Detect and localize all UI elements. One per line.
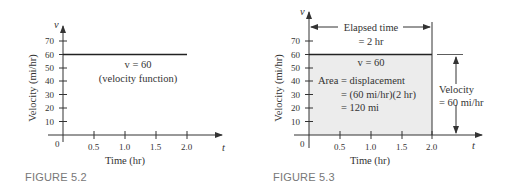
svg-text:60: 60 [45,50,55,60]
y-axis-title: Velocity (mi/hr) [27,54,39,122]
figure-5-3: v t 0 70 60 50 40 30 20 10 [273,6,484,183]
svg-text:30: 30 [45,90,55,100]
svg-text:70: 70 [45,36,55,46]
y-tick-labels: 70 60 50 40 30 20 10 [291,36,301,127]
svg-text:60: 60 [291,50,301,60]
svg-text:1.0: 1.0 [119,142,131,152]
y-axis-var: v [300,6,305,17]
elapsed-value: = 2 hr [358,36,384,47]
x-axis-title: Time (hr) [105,155,146,167]
svg-text:50: 50 [291,63,301,73]
origin-label: 0 [55,139,60,149]
x-axis-title: Time (hr) [350,155,391,167]
svg-text:70: 70 [291,36,301,46]
svg-text:50: 50 [45,63,55,73]
x-tick-labels: 0.5 1.0 1.5 2.0 [334,142,438,152]
svg-text:1.5: 1.5 [150,142,162,152]
svg-text:10: 10 [45,117,55,127]
svg-text:0.5: 0.5 [88,142,100,152]
svg-text:20: 20 [45,103,55,113]
figure-5-2: v t 0 70 60 50 40 30 20 10 [25,19,226,183]
x-axis-var: t [222,142,226,153]
svg-text:30: 30 [291,90,301,100]
equation-note: (velocity function) [99,73,178,85]
equation-label: v = 60 [125,59,152,70]
x-axis-var: t [472,140,476,151]
figure-caption: FIGURE 5.2 [25,171,87,183]
equation-label: v = 60 [358,57,385,68]
svg-text:0.5: 0.5 [334,142,346,152]
svg-text:2.0: 2.0 [181,142,193,152]
svg-text:20: 20 [291,103,301,113]
y-tick-labels: 70 60 50 40 30 20 10 [45,36,55,127]
svg-text:1.0: 1.0 [365,142,377,152]
x-tick-labels: 0.5 1.0 1.5 2.0 [88,142,193,152]
svg-text:2.0: 2.0 [426,142,438,152]
area-label-2: = (60 mi/hr)(2 hr) [341,89,417,101]
svg-text:40: 40 [45,76,55,86]
figure-caption: FIGURE 5.3 [273,171,335,183]
y-axis-var: v [54,19,59,30]
figures-canvas: v t 0 70 60 50 40 30 20 10 [0,0,507,191]
origin-label: 0 [300,139,305,149]
area-label-3: = 120 mi [341,102,379,113]
svg-text:40: 40 [291,76,301,86]
area-label-1: Area = displacement [318,75,405,86]
y-axis-title: Velocity (mi/hr) [273,54,285,122]
svg-text:1.5: 1.5 [396,142,408,152]
elapsed-label: Elapsed time [344,22,399,33]
svg-text:10: 10 [291,117,301,127]
velocity-value: = 60 mi/hr [439,97,484,108]
velocity-label: Velocity [439,84,475,95]
